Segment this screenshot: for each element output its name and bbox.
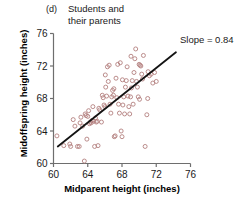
data-point (128, 112, 132, 116)
slope-annotation: Slope = 0.84 (180, 34, 234, 45)
data-point (68, 142, 72, 146)
data-point (114, 76, 118, 80)
tick-marks (50, 34, 191, 168)
y-tick-label: 68 (36, 93, 48, 104)
data-point (85, 137, 89, 141)
annotations: Slope = 0.84 (180, 34, 234, 45)
data-point (129, 95, 133, 99)
data-point (132, 71, 136, 75)
data-point (121, 103, 125, 107)
data-point (73, 124, 77, 128)
data-point (124, 79, 128, 83)
x-tick-label: 72 (151, 169, 163, 180)
data-point (129, 54, 133, 58)
data-point (146, 97, 150, 101)
data-point (123, 112, 127, 116)
data-point (82, 159, 86, 163)
data-point (104, 85, 108, 89)
data-point (78, 121, 82, 125)
data-point (117, 102, 121, 106)
y-tick-label: 64 (36, 126, 48, 137)
y-tick-label: 60 (36, 158, 48, 169)
data-point (117, 111, 121, 115)
x-tick-label: 64 (82, 169, 94, 180)
data-point (145, 113, 149, 117)
data-point (119, 129, 123, 133)
data-point (141, 53, 145, 57)
data-point (143, 144, 147, 148)
data-point (106, 79, 110, 83)
data-point (125, 65, 129, 69)
x-tick-label: 60 (48, 169, 60, 180)
data-point (120, 135, 124, 139)
data-point (123, 85, 127, 89)
data-point (69, 144, 73, 148)
data-point (130, 79, 134, 83)
data-point (55, 134, 59, 138)
data-point (131, 102, 135, 106)
data-point (105, 94, 109, 98)
y-tick-label: 72 (36, 61, 48, 72)
data-points (55, 47, 158, 163)
data-point (71, 118, 75, 122)
plot-canvas: 60646872766064687276 Slope = 0.84 (0, 0, 241, 205)
data-point (127, 105, 131, 109)
y-tick-label: 76 (36, 28, 48, 39)
data-point (103, 73, 107, 77)
x-tick-label: 68 (116, 169, 128, 180)
x-tick-label: 76 (185, 169, 197, 180)
scatter-plot-figure: (d) Students and their parents Midoffspr… (0, 0, 241, 205)
data-point (134, 47, 138, 51)
data-point (91, 105, 95, 109)
data-point (133, 57, 137, 61)
data-point (79, 115, 83, 119)
data-point (135, 85, 139, 89)
data-point (154, 79, 158, 83)
data-point (62, 144, 66, 148)
data-point (120, 78, 124, 82)
data-point (109, 111, 113, 115)
data-point (140, 72, 144, 76)
data-point (100, 93, 104, 97)
data-point (87, 109, 91, 113)
data-point (99, 120, 103, 124)
data-point (126, 94, 130, 98)
